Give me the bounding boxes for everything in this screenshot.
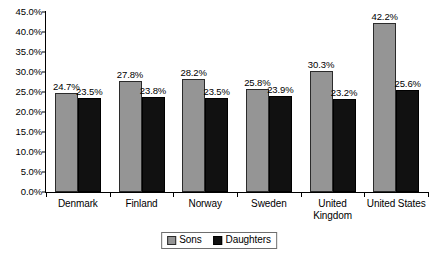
chart-legend: SonsDaughters bbox=[161, 232, 277, 249]
x-axis-category-tick bbox=[110, 192, 111, 197]
x-axis-category-tick bbox=[301, 192, 302, 197]
y-axis-tick: 35.0% bbox=[16, 46, 46, 58]
y-axis: 45.0%40.0%35.0%30.0%25.0%20.0%15.0%10.0%… bbox=[0, 0, 46, 204]
bar-value-label: 25.6% bbox=[394, 78, 420, 89]
y-axis-tick: 25.0% bbox=[16, 86, 46, 98]
x-axis-label-line: United bbox=[301, 198, 365, 210]
bar-value-label: 23.2% bbox=[331, 87, 357, 98]
x-axis-category-tick bbox=[173, 192, 174, 197]
bar-group: 42.2%25.6% bbox=[364, 12, 428, 192]
bar-daughters[interactable]: 23.5% bbox=[78, 12, 101, 192]
x-axis-label-line: Norway bbox=[173, 198, 237, 210]
bar-sons[interactable]: 27.8% bbox=[119, 12, 142, 192]
bar-rect[interactable] bbox=[142, 97, 165, 192]
x-axis-label-line: Kingdom bbox=[301, 210, 365, 222]
legend-item-sons[interactable]: Sons bbox=[167, 234, 201, 246]
bar-rect[interactable] bbox=[310, 71, 333, 192]
y-axis-tick: 15.0% bbox=[16, 126, 46, 138]
bar-value-label: 30.3% bbox=[308, 59, 334, 70]
x-axis-label-line: Denmark bbox=[46, 198, 110, 210]
bar-group: 27.8%23.8% bbox=[110, 12, 174, 192]
x-axis-label-line: Sweden bbox=[237, 198, 301, 210]
bar-group: 28.2%23.5% bbox=[173, 12, 237, 192]
bar-rect[interactable] bbox=[373, 23, 396, 192]
y-axis-tick: 30.0% bbox=[16, 66, 46, 78]
bar-sons[interactable]: 28.2% bbox=[182, 12, 205, 192]
y-axis-tick: 0.0% bbox=[21, 186, 46, 198]
bar-daughters[interactable]: 23.5% bbox=[205, 12, 228, 192]
x-axis-category-ticks bbox=[46, 192, 428, 197]
bar-chart: 45.0%40.0%35.0%30.0%25.0%20.0%15.0%10.0%… bbox=[0, 0, 438, 256]
x-axis-label-line: United States bbox=[364, 198, 428, 210]
x-axis-label: UnitedKingdom bbox=[301, 198, 365, 222]
y-axis-tick: 40.0% bbox=[16, 26, 46, 38]
bar-value-label: 23.8% bbox=[140, 85, 166, 96]
bar-rect[interactable] bbox=[333, 99, 356, 192]
bar-daughters[interactable]: 23.8% bbox=[142, 12, 165, 192]
x-axis-category-tick bbox=[237, 192, 238, 197]
bar-daughters[interactable]: 23.9% bbox=[269, 12, 292, 192]
legend-swatch-icon bbox=[214, 236, 223, 245]
bar-daughters[interactable]: 23.2% bbox=[333, 12, 356, 192]
legend-label: Daughters bbox=[226, 234, 271, 246]
bar-sons[interactable]: 30.3% bbox=[310, 12, 333, 192]
bar-rect[interactable] bbox=[396, 90, 419, 192]
bar-sons[interactable]: 24.7% bbox=[55, 12, 78, 192]
x-axis-label-line: Finland bbox=[110, 198, 174, 210]
x-axis-label: Finland bbox=[110, 198, 174, 222]
plot-area: 24.7%23.5%27.8%23.8%28.2%23.5%25.8%23.9%… bbox=[46, 12, 428, 192]
x-axis-label: United States bbox=[364, 198, 428, 222]
bar-value-label: 23.5% bbox=[76, 86, 102, 97]
bar-sons[interactable]: 25.8% bbox=[246, 12, 269, 192]
x-axis-category-tick bbox=[46, 192, 47, 197]
bar-value-label: 42.2% bbox=[371, 11, 397, 22]
bar-rect[interactable] bbox=[55, 93, 78, 192]
x-axis-category-tick bbox=[428, 192, 429, 197]
bar-rect[interactable] bbox=[246, 89, 269, 192]
y-axis-tick: 5.0% bbox=[21, 166, 46, 178]
y-axis-tick: 10.0% bbox=[16, 146, 46, 158]
legend-item-daughters[interactable]: Daughters bbox=[214, 234, 271, 246]
bar-rect[interactable] bbox=[78, 98, 101, 192]
bar-group: 25.8%23.9% bbox=[237, 12, 301, 192]
bar-group: 24.7%23.5% bbox=[46, 12, 110, 192]
bar-rect[interactable] bbox=[269, 96, 292, 192]
x-axis-category-tick bbox=[364, 192, 365, 197]
bar-rect[interactable] bbox=[205, 98, 228, 192]
y-axis-tick: 20.0% bbox=[16, 106, 46, 118]
x-axis-label: Norway bbox=[173, 198, 237, 222]
bar-value-label: 28.2% bbox=[180, 67, 206, 78]
bar-rect[interactable] bbox=[119, 81, 142, 192]
x-axis-label: Denmark bbox=[46, 198, 110, 222]
bar-sons[interactable]: 42.2% bbox=[373, 12, 396, 192]
bar-value-label: 23.9% bbox=[267, 84, 293, 95]
legend-label: Sons bbox=[179, 234, 201, 246]
y-axis-tick: 45.0% bbox=[16, 6, 46, 18]
bar-value-label: 23.5% bbox=[203, 86, 229, 97]
bar-rect[interactable] bbox=[182, 79, 205, 192]
bar-value-label: 27.8% bbox=[117, 69, 143, 80]
bar-daughters[interactable]: 25.6% bbox=[396, 12, 419, 192]
x-axis-labels: DenmarkFinlandNorwaySwedenUnitedKingdomU… bbox=[46, 198, 428, 222]
x-axis-label: Sweden bbox=[237, 198, 301, 222]
legend-swatch-icon bbox=[167, 236, 176, 245]
bar-group: 30.3%23.2% bbox=[301, 12, 365, 192]
